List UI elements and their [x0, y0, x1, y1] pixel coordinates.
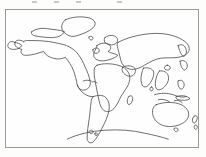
- top-artifact-tick-3: [117, 1, 122, 3]
- landmass-asia-northern: Northern Asia (Siberia): [117, 33, 189, 69]
- landmass-philippines: Philippines: [178, 80, 184, 89]
- top-artifact-tick-1: [54, 1, 59, 3]
- landmass-indonesia: Indonesian Archipelago: [154, 93, 186, 102]
- map-border-frame: GreenlandNorth AmericaCanadian Arctic Ar…: [5, 9, 199, 148]
- landmass-mid-pacific-island: Pacific island: [164, 65, 170, 70]
- top-artifact-tick-0: [32, 1, 37, 3]
- world-map-graphic: GreenlandNorth AmericaCanadian Arctic Ar…: [6, 10, 198, 147]
- landmass-australia: Australia: [152, 102, 188, 126]
- landmass-iceland: Iceland: [89, 36, 93, 40]
- landmass-madagascar: Madagascar: [127, 96, 132, 105]
- landmass-japan: Japan: [180, 60, 187, 70]
- landmass-new-zealand: New Zealand: [192, 116, 197, 130]
- landmass-antarctica: Antarctica: [67, 130, 168, 139]
- world-map-page: GreenlandNorth AmericaCanadian Arctic Ar…: [0, 0, 206, 157]
- landmass-north-america-mainland: North America: [15, 40, 91, 90]
- top-artifact-tick-2: [76, 1, 81, 3]
- landmass-india: Indian Subcontinent: [141, 68, 154, 87]
- landmass-southeast-asia: Southeast Asia: [155, 71, 168, 90]
- landmass-tasmania: Tasmania: [174, 128, 178, 132]
- landmass-new-guinea: New Guinea: [176, 96, 190, 101]
- landmass-scandinavia: Scandinavia: [104, 35, 117, 45]
- landmass-south-america: South America: [87, 95, 109, 142]
- landmass-greenland: Greenland: [62, 17, 95, 37]
- landmass-africa: Africa: [94, 64, 130, 112]
- landmass-central-america: Central America: [77, 85, 93, 97]
- landmass-sri-lanka: Sri Lanka: [150, 87, 153, 91]
- top-edge-artifacts: [0, 0, 206, 7]
- landmass-canadian-arctic: Canadian Arctic Archipelago: [31, 28, 64, 37]
- landmass-europe: Europe: [94, 43, 118, 61]
